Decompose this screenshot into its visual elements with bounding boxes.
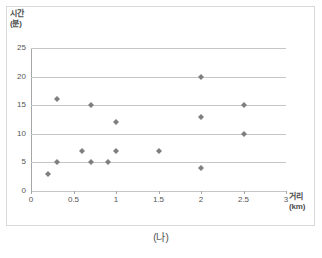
data-point xyxy=(241,131,247,137)
data-point xyxy=(45,171,51,177)
data-point xyxy=(241,102,247,108)
figure-caption: (나) xyxy=(0,232,322,244)
x-tick-label-0: 0 xyxy=(29,196,33,204)
x-tick-mark-2.5 xyxy=(244,191,245,194)
data-point xyxy=(198,74,204,80)
y-tick-label-10: 10 xyxy=(17,130,26,138)
x-tick-label-3: 3 xyxy=(284,196,288,204)
x-tick-mark-0 xyxy=(31,191,32,194)
x-tick-label-1: 1 xyxy=(114,196,118,204)
y-tick-label-15: 15 xyxy=(17,101,26,109)
gridline-y-15 xyxy=(31,105,286,106)
data-point xyxy=(113,119,119,125)
data-point xyxy=(105,159,111,165)
scatter-plot-figure: 시간 (분) 거리 (km) 0510152025 00.511.522.53 … xyxy=(0,0,322,258)
data-point xyxy=(54,159,60,165)
x-tick-mark-1.5 xyxy=(159,191,160,194)
gridline-y-10 xyxy=(31,134,286,135)
y-tick-label-20: 20 xyxy=(17,73,26,81)
data-point xyxy=(88,102,94,108)
x-tick-mark-2 xyxy=(201,191,202,194)
x-tick-label-2: 2 xyxy=(199,196,203,204)
data-point xyxy=(198,114,204,120)
x-tick-mark-3 xyxy=(286,191,287,194)
data-point xyxy=(88,159,94,165)
data-point xyxy=(54,96,60,102)
data-point xyxy=(198,165,204,171)
x-axis-title: 거리 (km) xyxy=(289,192,305,212)
x-tick-mark-0.5 xyxy=(74,191,75,194)
data-point xyxy=(156,148,162,154)
y-axis-title: 시간 (분) xyxy=(10,9,24,29)
gridline-y-25 xyxy=(31,48,286,49)
x-tick-label-2.5: 2.5 xyxy=(238,196,249,204)
y-tick-label-5: 5 xyxy=(22,158,26,166)
y-tick-label-25: 25 xyxy=(17,44,26,52)
x-tick-label-1.5: 1.5 xyxy=(153,196,164,204)
gridline-y-20 xyxy=(31,77,286,78)
plot-area: 0510152025 00.511.522.53 xyxy=(31,48,286,191)
y-tick-label-0: 0 xyxy=(22,187,26,195)
data-point xyxy=(113,148,119,154)
data-point xyxy=(79,148,85,154)
x-tick-mark-1 xyxy=(116,191,117,194)
gridline-y-5 xyxy=(31,162,286,163)
x-tick-label-0.5: 0.5 xyxy=(68,196,79,204)
